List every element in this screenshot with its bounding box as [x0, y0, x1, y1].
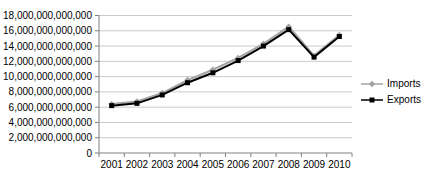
series-line-exports [112, 30, 340, 106]
exports-line-marker-icon [361, 95, 383, 105]
series-marker-exports [185, 80, 190, 85]
series-marker-exports [337, 34, 342, 39]
legend-label-imports: Imports [387, 77, 420, 90]
y-axis-label: 10,000,000,000,000 [3, 71, 92, 82]
y-axis-label: 18,000,000,000,000 [3, 10, 92, 21]
series-marker-exports [210, 70, 215, 75]
x-axis-label: 2009 [303, 159, 326, 170]
y-axis-label: 4,000,000,000,000 [9, 117, 93, 128]
legend-item-imports: Imports [361, 77, 421, 90]
x-axis-label: 2008 [278, 159, 301, 170]
x-axis-label: 2004 [176, 159, 199, 170]
imports-line-marker-icon [361, 79, 383, 89]
series-marker-exports [109, 103, 114, 108]
series-line-imports [112, 27, 340, 105]
trade-line-chart: 02,000,000,000,0004,000,000,000,0006,000… [0, 0, 422, 180]
series-marker-exports [312, 55, 317, 60]
x-axis-label: 2010 [328, 159, 351, 170]
y-axis-label: 0 [86, 148, 92, 159]
x-axis-label: 2001 [101, 159, 124, 170]
y-axis-label: 14,000,000,000,000 [3, 41, 92, 52]
y-axis-label: 12,000,000,000,000 [3, 56, 92, 67]
x-axis-label: 2002 [126, 159, 149, 170]
legend-label-exports: Exports [387, 93, 421, 106]
series-marker-exports [286, 27, 291, 32]
series-marker-exports [160, 92, 165, 97]
series-marker-exports [261, 44, 266, 49]
series-marker-exports [134, 101, 139, 106]
y-axis-label: 8,000,000,000,000 [9, 86, 93, 97]
x-axis-label: 2005 [202, 159, 225, 170]
legend-marker-imports [369, 80, 375, 86]
legend-marker-exports [370, 97, 375, 102]
series-marker-exports [236, 58, 241, 63]
chart-legend: Imports Exports [361, 77, 421, 106]
x-axis-label: 2006 [227, 159, 250, 170]
y-axis-label: 6,000,000,000,000 [9, 102, 93, 113]
y-axis-label: 16,000,000,000,000 [3, 25, 92, 36]
x-axis-label: 2007 [252, 159, 275, 170]
legend-item-exports: Exports [361, 93, 421, 106]
x-axis-label: 2003 [151, 159, 174, 170]
y-axis-label: 2,000,000,000,000 [9, 132, 93, 143]
chart-plot-area: 02,000,000,000,0004,000,000,000,0006,000… [0, 0, 422, 180]
